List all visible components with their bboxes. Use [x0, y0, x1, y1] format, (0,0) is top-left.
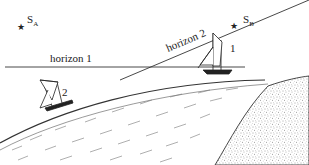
sea-surface-curve [0, 80, 265, 143]
star-s-b-label: SB [243, 13, 254, 28]
ship-2 [40, 80, 73, 111]
earth-curvature-diagram: horizon 1 horizon 2 ★ SA ★ SB 1 2 [0, 0, 309, 165]
star-icon: ★ [230, 21, 238, 31]
ship-1-label: 1 [230, 42, 236, 54]
sea-surface-inner [0, 84, 268, 150]
star-s-a: ★ SA [17, 13, 38, 32]
horizon-1-label: horizon 1 [50, 52, 92, 64]
star-icon: ★ [17, 22, 25, 32]
ship-2-label: 2 [62, 86, 68, 98]
star-s-a-label: SA [27, 13, 38, 28]
horizon-2-label: horizon 2 [164, 26, 207, 53]
